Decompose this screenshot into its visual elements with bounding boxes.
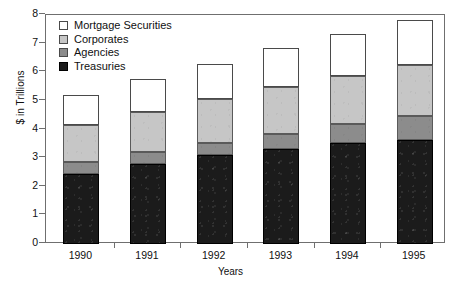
bar-segment-treasuries[interactable] bbox=[63, 174, 99, 244]
bar-segment-mortgage[interactable] bbox=[330, 34, 366, 76]
y-axis-tick-label: 6 bbox=[8, 65, 38, 75]
x-axis-title: Years bbox=[0, 266, 461, 277]
legend-item-label: Treasuries bbox=[74, 61, 126, 72]
y-axis-tick-label: 8 bbox=[8, 8, 38, 18]
bar-segment-corporates[interactable] bbox=[330, 76, 366, 124]
x-axis-tick-label: 1992 bbox=[184, 249, 244, 261]
x-axis-tick bbox=[114, 243, 115, 248]
legend-swatch-icon bbox=[59, 48, 68, 57]
x-axis-tick-label: 1995 bbox=[384, 249, 444, 261]
bar-segment-agencies[interactable] bbox=[397, 116, 433, 139]
x-axis-tick-label: 1993 bbox=[250, 249, 310, 261]
bar-segment-treasuries[interactable] bbox=[330, 143, 366, 244]
bar-segment-corporates[interactable] bbox=[397, 65, 433, 116]
bar-1992[interactable] bbox=[197, 15, 233, 244]
bar-segment-corporates[interactable] bbox=[63, 125, 99, 162]
bar-segment-agencies[interactable] bbox=[263, 134, 299, 149]
legend-swatch-icon bbox=[59, 62, 68, 71]
legend: Mortgage SecuritiesCorporatesAgenciesTre… bbox=[59, 19, 172, 73]
legend-swatch-icon bbox=[59, 21, 68, 30]
bar-segment-mortgage[interactable] bbox=[197, 64, 233, 100]
legend-item-agencies[interactable]: Agencies bbox=[59, 46, 172, 60]
bar-segment-corporates[interactable] bbox=[197, 99, 233, 143]
y-axis-tick-label: 5 bbox=[8, 94, 38, 104]
bar-1995[interactable] bbox=[397, 15, 433, 244]
x-axis-tick bbox=[247, 243, 248, 248]
bar-segment-mortgage[interactable] bbox=[397, 20, 433, 65]
bar-1993[interactable] bbox=[263, 15, 299, 244]
bar-segment-agencies[interactable] bbox=[63, 162, 99, 174]
bar-segment-corporates[interactable] bbox=[130, 112, 166, 152]
legend-swatch-icon bbox=[59, 35, 68, 44]
bar-segment-agencies[interactable] bbox=[130, 152, 166, 165]
stacked-bar-chart: $ in Trillions 012345678 199019911992199… bbox=[0, 0, 461, 287]
x-axis-tick bbox=[380, 243, 381, 248]
x-axis-tick-label: 1990 bbox=[50, 249, 110, 261]
legend-item-mortgage[interactable]: Mortgage Securities bbox=[59, 19, 172, 33]
y-axis-tick-label: 4 bbox=[8, 123, 38, 133]
bar-segment-treasuries[interactable] bbox=[397, 140, 433, 244]
bar-segment-treasuries[interactable] bbox=[130, 164, 166, 244]
y-axis-tick-label: 7 bbox=[8, 37, 38, 47]
x-axis-tick bbox=[180, 243, 181, 248]
y-axis-tick-label: 1 bbox=[8, 208, 38, 218]
bar-segment-treasuries[interactable] bbox=[197, 155, 233, 244]
legend-item-corporates[interactable]: Corporates bbox=[59, 33, 172, 47]
x-axis-tick bbox=[314, 243, 315, 248]
bar-segment-mortgage[interactable] bbox=[263, 48, 299, 86]
bar-segment-mortgage[interactable] bbox=[63, 95, 99, 124]
bar-segment-corporates[interactable] bbox=[263, 87, 299, 134]
legend-item-treasuries[interactable]: Treasuries bbox=[59, 60, 172, 74]
bar-1994[interactable] bbox=[330, 15, 366, 244]
y-axis-tick-label: 2 bbox=[8, 180, 38, 190]
x-axis-tick-label: 1994 bbox=[317, 249, 377, 261]
bar-segment-treasuries[interactable] bbox=[263, 149, 299, 244]
y-axis-tick-label: 0 bbox=[8, 237, 38, 247]
bar-segment-agencies[interactable] bbox=[197, 143, 233, 155]
legend-item-label: Corporates bbox=[74, 34, 128, 45]
x-axis-tick-label: 1991 bbox=[117, 249, 177, 261]
legend-item-label: Mortgage Securities bbox=[74, 20, 172, 31]
y-axis-tick-label: 3 bbox=[8, 151, 38, 161]
legend-item-label: Agencies bbox=[74, 47, 119, 58]
bar-segment-mortgage[interactable] bbox=[130, 79, 166, 112]
bar-segment-agencies[interactable] bbox=[330, 124, 366, 143]
